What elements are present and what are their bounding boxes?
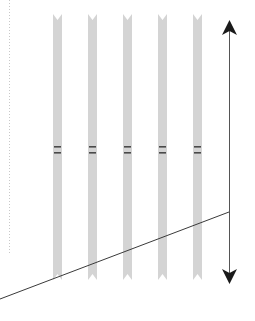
test-strip (193, 14, 202, 280)
double-headed-arrow (222, 20, 237, 284)
strip-band (124, 152, 131, 154)
strip-band (89, 146, 96, 148)
strip-band (89, 152, 96, 154)
diagram-canvas (0, 0, 255, 321)
strips-group (53, 14, 202, 280)
test-strip (123, 14, 132, 280)
strip-band (54, 152, 61, 154)
strip-band (194, 152, 201, 154)
strip-band (159, 152, 166, 154)
diagram-svg (0, 0, 255, 321)
test-strip (53, 14, 62, 280)
strip-band (124, 146, 131, 148)
strip-band (54, 146, 61, 148)
strip-band (194, 146, 201, 148)
test-strip (158, 14, 167, 280)
test-strip (88, 14, 97, 280)
strip-band (159, 146, 166, 148)
